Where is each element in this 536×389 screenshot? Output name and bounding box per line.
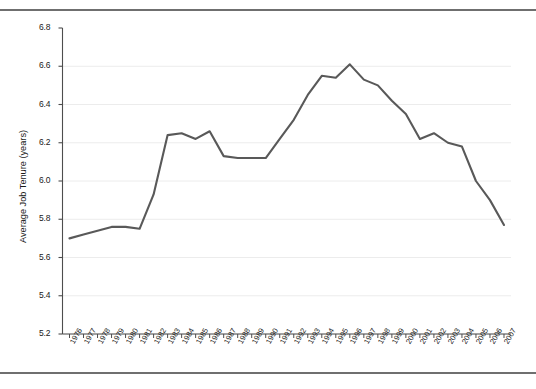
- y-axis-tick-label: 6.8: [27, 22, 51, 32]
- y-axis-tick-label: 5.6: [27, 252, 51, 262]
- y-axis-tick-label: 6.4: [27, 99, 51, 109]
- y-axis-ticks: [59, 28, 63, 334]
- y-axis-tick-label: 5.4: [27, 290, 51, 300]
- y-axis-tick-label: 5.8: [27, 213, 51, 223]
- y-axis-tick-label: 5.2: [27, 328, 51, 338]
- figure: Average Job Tenure (years) 5.25.45.65.86…: [0, 0, 536, 389]
- y-axis-tick-label: 6.2: [27, 137, 51, 147]
- y-axis-tick-label: 6.0: [27, 175, 51, 185]
- gridlines: [63, 66, 512, 334]
- data-series-line: [70, 64, 504, 238]
- y-axis-tick-label: 6.6: [27, 60, 51, 70]
